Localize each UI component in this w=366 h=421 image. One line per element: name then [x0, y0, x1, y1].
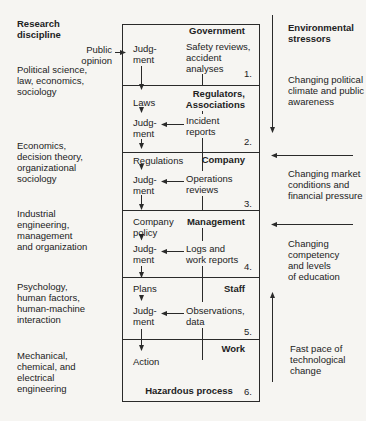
- directive-company-policy: Company policy: [133, 216, 174, 238]
- directive-regulations: Regulations: [133, 155, 183, 166]
- level-title-regulators: Regulators, Associations: [148, 88, 245, 110]
- level-number-6: 6.: [150, 386, 252, 397]
- level-number-1: 1.: [150, 68, 252, 79]
- feedback-incident-reports: Incident reports: [186, 115, 219, 137]
- level-title-work: Work: [148, 343, 245, 354]
- level-title-government: Government: [148, 25, 245, 36]
- level-number-4: 4.: [150, 261, 252, 272]
- level-number-5: 5.: [150, 326, 252, 337]
- research-discipline-header: Research discipline: [17, 18, 61, 40]
- rasmussen-framework-diagram: Research discipline Political science, l…: [0, 0, 366, 421]
- feedback-operations-reviews: Operations reviews: [186, 173, 232, 195]
- stressor-technological-change: Fast pace of technological change: [290, 343, 345, 376]
- judgment-label-3: Judg- ment: [133, 174, 157, 196]
- feedback-observations-data: Observations, data: [186, 305, 245, 327]
- environmental-stressors-header: Environmental stressors: [288, 22, 354, 44]
- discipline-political-science: Political science, law, economics, socio…: [17, 64, 87, 97]
- stressor-competency: Changing competency and levels of educat…: [288, 238, 340, 282]
- directive-laws: Laws: [133, 97, 155, 108]
- directive-plans: Plans: [133, 283, 157, 294]
- discipline-economics: Economics, decision theory, organization…: [17, 140, 83, 184]
- discipline-psychology: Psychology, human factors, human-machine…: [17, 281, 85, 325]
- discipline-mechanical: Mechanical, chemical, and electrical eng…: [17, 350, 76, 394]
- directive-action: Action: [133, 356, 159, 367]
- stressor-political-climate: Changing political climate and public aw…: [288, 74, 364, 107]
- judgment-label-1: Judg- ment: [133, 43, 157, 65]
- level-number-3: 3.: [150, 198, 252, 209]
- discipline-industrial-engineering: Industrial engineering, management and o…: [17, 208, 87, 252]
- public-opinion-label: Public opinion: [60, 44, 112, 66]
- level-title-staff: Staff: [148, 283, 245, 294]
- judgment-label-5: Judg- ment: [133, 305, 157, 327]
- stressor-market-conditions: Changing market conditions and financial…: [288, 168, 362, 201]
- level-number-2: 2.: [150, 136, 252, 147]
